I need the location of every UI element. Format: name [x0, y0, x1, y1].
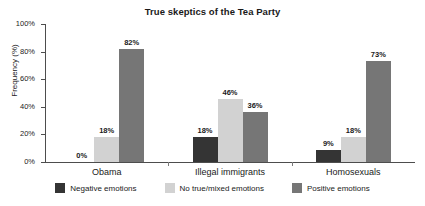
y-axis-tick-label: 80% [20, 47, 35, 56]
y-axis-tick: 0% [41, 162, 45, 163]
x-axis-tick [292, 162, 293, 166]
legend-item[interactable]: No true/mixed emotions [165, 183, 264, 193]
legend-swatch-icon [55, 183, 65, 193]
x-axis-line [45, 162, 415, 163]
legend-swatch-icon [292, 183, 302, 193]
bar [119, 49, 144, 162]
bar [243, 112, 268, 162]
bar-value-label: 36% [239, 101, 272, 110]
y-axis-tick-label: 0% [24, 157, 35, 166]
y-axis-tick-label: 60% [20, 74, 35, 83]
plot-area: 0%20%40%60%80%100% 0%18%82%18%46%36%9%18… [45, 24, 415, 162]
bar [316, 150, 341, 162]
y-axis-tick-label: 40% [20, 102, 35, 111]
x-axis-tick [168, 162, 169, 166]
x-axis-category-label: Obama [45, 167, 168, 177]
y-axis-title: Frequency (%) [10, 26, 19, 116]
y-axis-tick: 20% [41, 134, 45, 135]
y-axis-tick: 60% [41, 79, 45, 80]
y-axis-tick: 40% [41, 107, 45, 108]
bar [341, 137, 366, 162]
bar [366, 61, 391, 162]
x-axis-category-label: Homosexuals [292, 167, 415, 177]
bar-chart: True skeptics of the Tea Party Frequency… [0, 0, 425, 206]
y-axis-tick: 100% [41, 24, 45, 25]
y-axis-tick-label: 20% [20, 129, 35, 138]
y-axis-tick-label: 100% [16, 19, 35, 28]
bar-value-label: 82% [115, 38, 148, 47]
y-axis-line [45, 24, 46, 162]
bar [193, 137, 218, 162]
legend-swatch-icon [165, 183, 175, 193]
chart-legend: Negative emotionsNo true/mixed emotionsP… [0, 183, 425, 193]
legend-label: No true/mixed emotions [180, 184, 264, 193]
legend-label: Positive emotions [307, 184, 370, 193]
chart-title: True skeptics of the Tea Party [0, 6, 425, 17]
bar-value-label: 73% [362, 50, 395, 59]
legend-item[interactable]: Negative emotions [55, 183, 136, 193]
legend-label: Negative emotions [70, 184, 136, 193]
x-axis-category-label: Illegal immigrants [168, 167, 291, 177]
bar [94, 137, 119, 162]
legend-item[interactable]: Positive emotions [292, 183, 370, 193]
y-axis-tick: 80% [41, 52, 45, 53]
bar-value-label: 46% [214, 88, 247, 97]
